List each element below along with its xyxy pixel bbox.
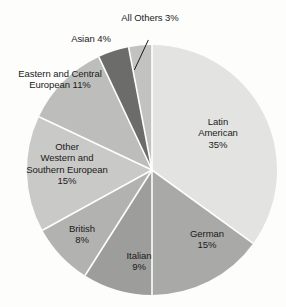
pie-chart-figure: LatinAmerican35% German15% Italian9% Bri… xyxy=(0,0,286,307)
pie-label-latin-american: LatinAmerican35% xyxy=(185,116,251,150)
pie-label-eastern-central-european: Eastern and CentralEuropean 11% xyxy=(1,68,119,91)
pie-label-all-others: All Others 3% xyxy=(97,12,203,23)
pie-label-asian: Asian 4% xyxy=(58,33,124,44)
pie-label-british: British8% xyxy=(54,223,110,246)
pie-label-italian: Italian9% xyxy=(112,250,166,273)
pie-label-other-western-southern-european: OtherWestern andSouthern European15% xyxy=(6,141,128,186)
pie-label-german: German15% xyxy=(176,228,238,251)
